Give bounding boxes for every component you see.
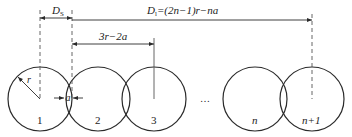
overlap-label: a (66, 92, 71, 103)
circle-label-n-plus-1: n+1 (302, 114, 320, 126)
circle-label-n: n (252, 114, 258, 126)
pitch-label: 3r−2a (98, 30, 128, 42)
reference-lines (40, 10, 312, 99)
circle-label-2: 2 (95, 114, 101, 126)
dl-label: Dl=(2n−1)r−na (146, 4, 219, 18)
ds-label: DS (51, 4, 64, 18)
ellipsis: … (200, 93, 210, 104)
radius-label: r (27, 74, 31, 85)
circle-label-3: 3 (151, 114, 157, 126)
circle-label-1: 1 (37, 114, 43, 126)
circles (8, 67, 344, 131)
circle-overlap-diagram: DS Dl=(2n−1)r−na 3r−2a r a 1 2 3 n n+1 … (0, 0, 352, 137)
